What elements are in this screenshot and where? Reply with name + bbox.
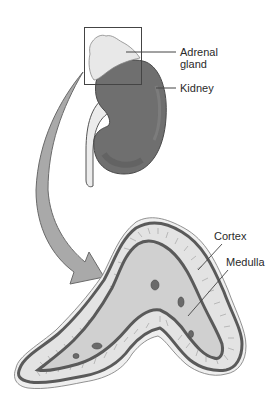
diagram-artwork xyxy=(0,0,278,414)
label-cortex: Cortex xyxy=(214,230,246,242)
label-medulla: Medulla xyxy=(226,256,265,268)
magnify-arrow xyxy=(36,72,104,284)
label-adrenal-gland-line2: gland xyxy=(180,58,207,70)
label-adrenal-gland-line1: Adrenal xyxy=(180,46,218,58)
adrenal-kidney-diagram: Adrenal gland Kidney Cortex Medulla xyxy=(0,0,278,414)
label-kidney: Kidney xyxy=(180,82,214,94)
